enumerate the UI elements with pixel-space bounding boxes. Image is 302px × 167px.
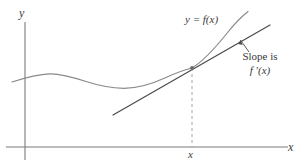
y-axis-label: y <box>19 7 24 19</box>
x-tick-label: x <box>188 149 193 160</box>
tangency-point-marker <box>190 66 194 70</box>
slope-annotation-line-2: f ′(x) <box>224 64 296 78</box>
x-axis-label: x <box>288 141 293 153</box>
slope-annotation: Slope is f ′(x) <box>224 50 296 78</box>
function-label: y = f(x) <box>185 14 218 25</box>
derivative-tangent-figure: y x x y = f(x) Slope is f ′(x) <box>0 0 302 167</box>
slope-annotation-line-1: Slope is <box>224 50 296 64</box>
figure-canvas <box>0 0 302 167</box>
